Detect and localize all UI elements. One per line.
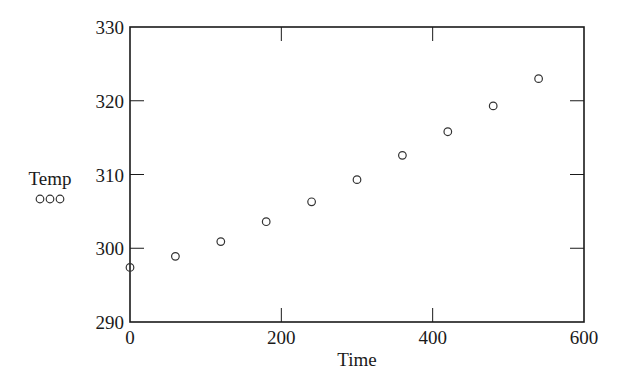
data-point xyxy=(353,176,361,184)
y-tick-label: 310 xyxy=(96,165,125,186)
legend-label: Temp xyxy=(29,168,72,189)
data-point xyxy=(262,218,270,226)
x-tick-label: 400 xyxy=(418,327,447,348)
y-tick-label: 330 xyxy=(96,17,125,38)
y-tick-label: 300 xyxy=(96,238,125,259)
data-points xyxy=(126,75,542,271)
legend-circle-icon xyxy=(46,195,54,203)
scatter-chart: 290300310320330 0200400600 Time Temp xyxy=(0,0,629,383)
y-tick-label: 320 xyxy=(96,91,125,112)
legend-circle-icon xyxy=(36,195,44,203)
x-tick-label: 0 xyxy=(125,327,135,348)
data-point xyxy=(489,102,497,110)
axis-ticks xyxy=(130,27,584,322)
plot-border xyxy=(130,27,584,322)
plot-frame xyxy=(130,27,584,322)
data-point xyxy=(172,253,180,261)
y-tick-labels: 290300310320330 xyxy=(96,17,125,333)
data-point xyxy=(308,198,316,206)
data-point xyxy=(535,75,543,83)
x-tick-label: 600 xyxy=(570,327,599,348)
x-axis-label: Time xyxy=(337,349,376,370)
legend: Temp xyxy=(29,168,72,203)
y-tick-label: 290 xyxy=(96,312,125,333)
legend-circle-icon xyxy=(56,195,64,203)
legend-marker-icon xyxy=(36,195,64,203)
x-tick-labels: 0200400600 xyxy=(125,327,598,348)
x-tick-label: 200 xyxy=(267,327,296,348)
data-point xyxy=(399,152,407,160)
data-point xyxy=(444,128,452,136)
data-point xyxy=(217,238,225,246)
